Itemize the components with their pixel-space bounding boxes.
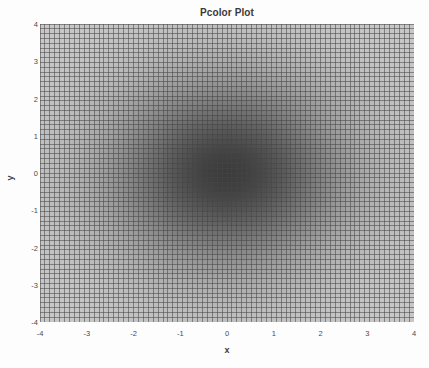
y-tick-label: 4 — [10, 20, 38, 29]
y-tick-label: -1 — [10, 206, 38, 215]
x-tick-label: -2 — [119, 329, 149, 338]
y-tick-label: 3 — [10, 57, 38, 66]
x-tick-label: 3 — [352, 329, 382, 338]
y-tick-label: 2 — [10, 94, 38, 103]
x-axis-ticks: -4-3-2-101234 — [40, 324, 414, 338]
figure-canvas: Pcolor Plot 43210-1-2-3-4 -4-3-2-101234 … — [0, 0, 429, 368]
y-tick-label: -3 — [10, 280, 38, 289]
x-tick-label: 4 — [399, 329, 429, 338]
y-tick-label: -4 — [10, 318, 38, 327]
y-tick-label: 1 — [10, 131, 38, 140]
x-tick-label: 1 — [259, 329, 289, 338]
x-tick-label: 2 — [306, 329, 336, 338]
x-tick-label: 0 — [212, 329, 242, 338]
x-tick-label: -3 — [72, 329, 102, 338]
page-title: Pcolor Plot — [40, 7, 414, 18]
x-tick-label: -4 — [25, 329, 55, 338]
y-axis-label: y — [5, 168, 15, 188]
plot-area[interactable] — [40, 24, 414, 322]
x-tick-label: -1 — [165, 329, 195, 338]
pcolor-mesh[interactable] — [40, 24, 414, 322]
y-tick-label: -2 — [10, 243, 38, 252]
x-axis-label: x — [40, 345, 414, 355]
